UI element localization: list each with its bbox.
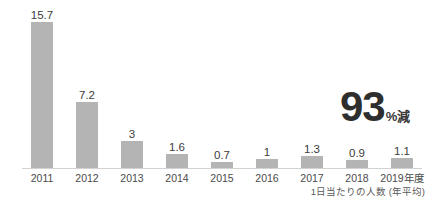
bar-value-label: 1.3	[292, 143, 332, 155]
bar-slot-2011: 15.7	[22, 8, 62, 169]
bar-slot-2014: 1.6	[157, 8, 197, 169]
bar-chart: 15.7 7.2 3 1.6 0.7 1 1.3 0.9	[0, 0, 443, 211]
bar-slot-2015: 0.7	[202, 8, 242, 169]
bar-value-label: 1	[247, 146, 287, 158]
bar-value-label: 3	[112, 128, 152, 140]
chart-footnote: 1日当たりの人数 (年平均)	[311, 186, 425, 198]
bar-2011[interactable]	[31, 22, 53, 169]
bar-2014[interactable]	[166, 154, 188, 169]
bar-value-label: 7.2	[67, 89, 107, 101]
bar-value-label: 1.6	[157, 141, 197, 153]
x-axis-line	[22, 168, 422, 169]
bar-slot-2013: 3	[112, 8, 152, 169]
x-tick-2019: 2019年度	[374, 171, 430, 185]
reduction-callout: 93 %減	[340, 88, 410, 126]
bar-2013[interactable]	[121, 141, 143, 169]
x-axis-tick-labels: 2011 2012 2013 2014 2015 2016 2017 2018 …	[22, 171, 422, 187]
bar-slot-2016: 1	[247, 8, 287, 169]
bar-value-label: 0.7	[202, 149, 242, 161]
bar-2012[interactable]	[76, 102, 98, 169]
bar-slot-2012: 7.2	[67, 8, 107, 169]
bar-slot-2017: 1.3	[292, 8, 332, 169]
reduction-callout-suffix: %減	[386, 110, 411, 124]
bar-value-label: 1.1	[382, 145, 422, 157]
reduction-callout-number: 93	[340, 88, 385, 126]
bar-value-label: 15.7	[22, 9, 62, 21]
bar-value-label: 0.9	[337, 147, 377, 159]
